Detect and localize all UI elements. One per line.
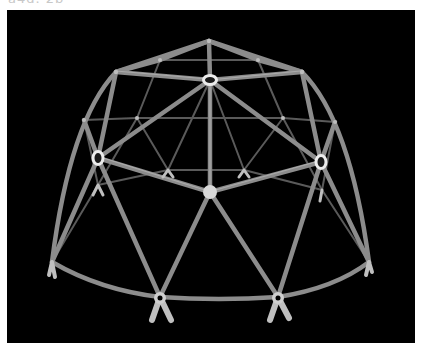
hub-top-front — [204, 76, 217, 85]
top-strip: a4d. 2b — [0, 0, 421, 9]
dome-photo — [7, 10, 415, 343]
dome-illustration — [7, 10, 415, 343]
hub-right — [316, 156, 326, 169]
hub-center — [203, 185, 217, 199]
hub-left — [93, 152, 103, 165]
cut-off-caption: a4d. 2b — [8, 0, 64, 6]
